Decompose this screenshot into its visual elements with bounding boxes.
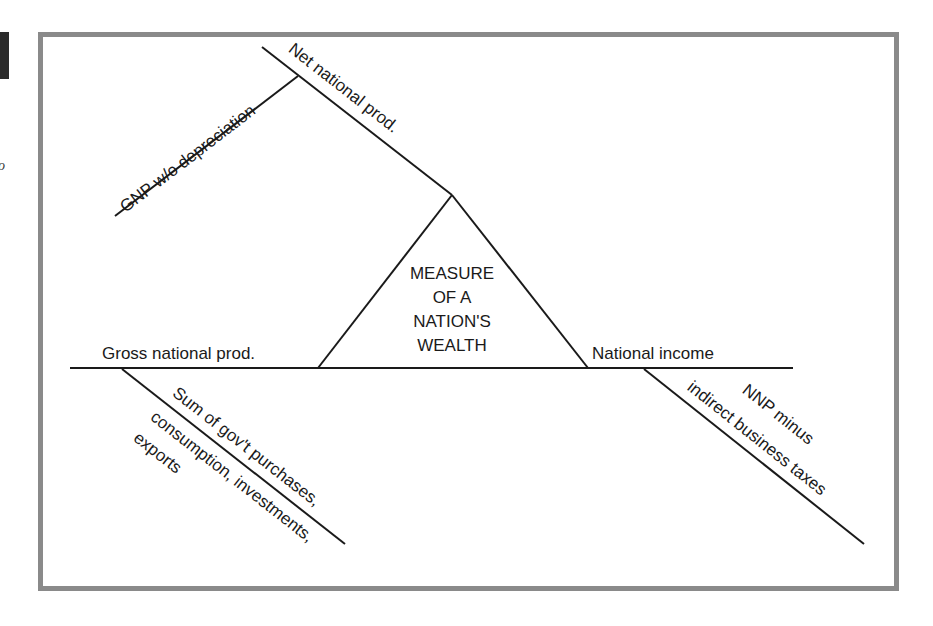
center-line-1: MEASURE [372,262,532,286]
center-line-4: WEALTH [372,334,532,358]
center-line-2: OF A [372,286,532,310]
national-income-label: National income [592,345,714,362]
gnp-label: Gross national prod. [102,345,255,362]
nnp-line [262,47,452,195]
center-label: MEASURE OF A NATION'S WEALTH [372,262,532,358]
center-line-3: NATION'S [372,310,532,334]
